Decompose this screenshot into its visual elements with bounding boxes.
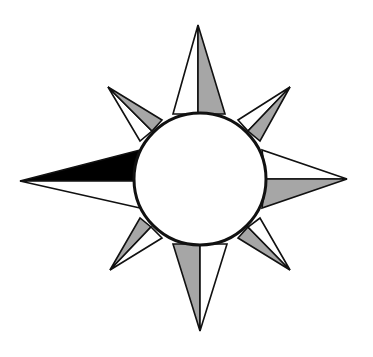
point-north xyxy=(173,25,225,114)
point-east xyxy=(262,150,347,208)
center-circle xyxy=(134,113,266,245)
point-south xyxy=(173,244,227,331)
point-west xyxy=(20,150,140,208)
compass-rose xyxy=(0,0,373,357)
